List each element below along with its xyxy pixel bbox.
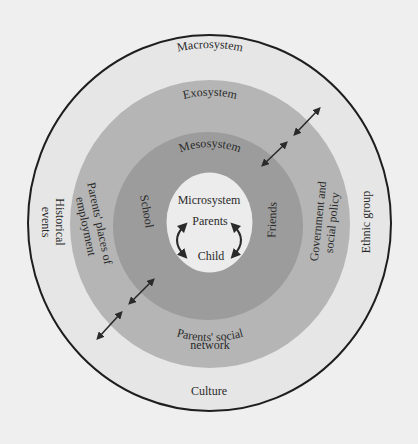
diagram-canvas: Macrosystem Culture Historical events Et…	[0, 0, 418, 444]
microsystem-title: Microsystem	[178, 193, 241, 207]
child-label: Child	[198, 249, 225, 263]
social-network-line2: network	[190, 338, 229, 352]
friends-label: Friends	[264, 201, 279, 238]
parents-label: Parents	[192, 214, 228, 228]
svg-text:Ethnic group: Ethnic group	[359, 191, 373, 253]
ethnic-group-label: Ethnic group	[359, 191, 373, 253]
ecological-systems-diagram: Macrosystem Culture Historical events Et…	[0, 0, 418, 444]
culture-label: Culture	[191, 384, 227, 398]
historical-line2: events	[39, 207, 53, 238]
historical-line1: Historical	[53, 198, 67, 246]
svg-text:Friends: Friends	[264, 201, 279, 238]
